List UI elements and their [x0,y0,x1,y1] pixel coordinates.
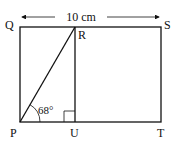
dimension-label: 10 cm [66,10,96,24]
label-s: S [164,18,171,32]
label-q: Q [5,18,14,32]
geometry-diagram: 10 cm 68° Q R S P U T [0,0,182,149]
dimension-arrow: 10 cm [22,10,159,24]
right-angle-marker [64,111,75,122]
label-r: R [78,28,86,42]
label-p: P [10,126,17,140]
label-t: T [157,126,165,140]
label-u: U [70,126,79,140]
angle-label: 68° [38,104,53,116]
